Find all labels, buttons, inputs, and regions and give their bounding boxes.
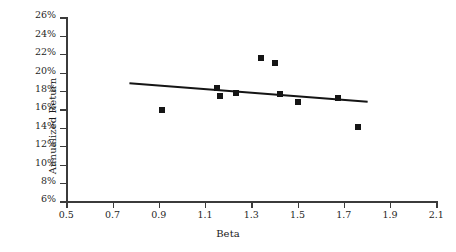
x-axis-tick-label: 0.5 <box>59 210 74 220</box>
data-point <box>159 107 165 113</box>
y-axis-tick: 18% <box>60 91 66 92</box>
x-axis-tick-label: 1.1 <box>198 210 213 220</box>
y-axis-tick: 10% <box>60 165 66 166</box>
data-point <box>233 90 239 96</box>
x-axis-tick: 0.5 <box>66 202 67 208</box>
data-point <box>217 93 223 99</box>
y-axis-tick-label: 24% <box>35 29 56 39</box>
x-axis-tick: 2.1 <box>436 202 437 208</box>
y-axis-tick-label: 6% <box>41 194 56 204</box>
data-point <box>295 99 301 105</box>
x-axis-tick: 1.9 <box>390 202 391 208</box>
x-axis-tick-label: 0.9 <box>151 210 166 220</box>
y-axis-tick: 14% <box>60 128 66 129</box>
data-point <box>335 95 341 101</box>
scatter-chart: 6%8%10%12%14%16%18%20%22%24%26% 0.50.70.… <box>0 0 456 252</box>
x-axis-tick: 1.7 <box>344 202 345 208</box>
data-point <box>277 91 283 97</box>
y-axis-tick-label: 26% <box>35 10 56 20</box>
x-axis-tick: 1.1 <box>205 202 206 208</box>
x-axis-tick: 1.3 <box>251 202 252 208</box>
x-axis-tick: 0.9 <box>159 202 160 208</box>
plot-area <box>67 18 437 202</box>
data-point <box>272 60 278 66</box>
x-axis-tick-label: 2.1 <box>429 210 444 220</box>
y-axis-tick: 26% <box>60 17 66 18</box>
x-axis-tick-label: 1.9 <box>383 210 398 220</box>
y-axis-tick-label: 8% <box>41 176 56 186</box>
y-axis-tick: 6% <box>60 201 66 202</box>
y-axis-tick: 16% <box>60 109 66 110</box>
x-axis-tick-label: 1.5 <box>290 210 305 220</box>
x-axis-tick-label: 1.7 <box>336 210 351 220</box>
y-axis-tick: 8% <box>60 183 66 184</box>
y-axis-tick: 12% <box>60 146 66 147</box>
y-axis-tick: 24% <box>60 36 66 37</box>
data-point <box>258 55 264 61</box>
data-point <box>214 85 220 91</box>
x-axis-tick-label: 0.7 <box>105 210 120 220</box>
y-axis-tick: 22% <box>60 54 66 55</box>
y-axis-title: Annualized Return <box>47 78 58 175</box>
y-axis-tick-label: 20% <box>35 66 56 76</box>
data-point <box>355 124 361 130</box>
y-axis-tick-label: 22% <box>35 47 56 57</box>
x-axis-title: Beta <box>0 228 456 239</box>
x-axis-tick: 0.7 <box>113 202 114 208</box>
x-axis-tick-label: 1.3 <box>244 210 259 220</box>
x-axis-tick: 1.5 <box>298 202 299 208</box>
y-axis-tick: 20% <box>60 73 66 74</box>
